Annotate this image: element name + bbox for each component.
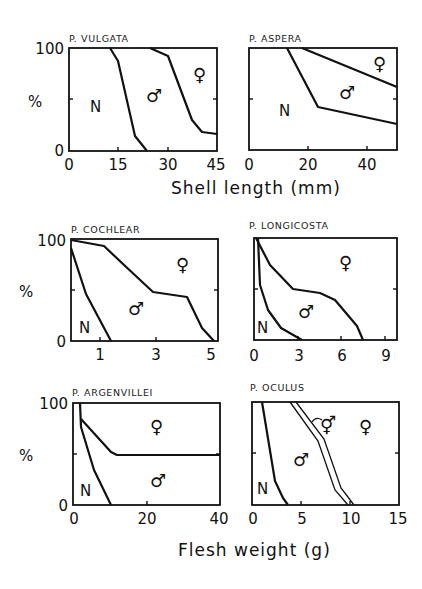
panel-title: P. OCULUS	[250, 382, 305, 393]
region-neuter-label: N	[279, 102, 290, 120]
neuter-boundary-line	[71, 248, 111, 341]
panel-title: P. VULGATA	[69, 33, 129, 44]
y-axis-label: %	[19, 447, 33, 465]
x-tick: 40	[209, 510, 228, 528]
panel-title: P. ASPERA	[249, 33, 302, 44]
x-tick: 0	[248, 510, 258, 528]
x-tick: 5	[297, 510, 307, 528]
female-symbol-icon: ♀	[359, 416, 372, 437]
x-tick: 6	[337, 347, 347, 365]
x-tick: 10	[341, 510, 360, 528]
x-tick: 3	[151, 346, 161, 364]
neuter-boundary-line	[110, 48, 147, 151]
y-tick-100: 100	[35, 40, 64, 58]
hermaphrodite-symbol-icon: ⚥	[320, 415, 336, 436]
male-symbol-icon: ♂	[146, 85, 162, 106]
x-tick: 1	[95, 346, 105, 364]
panel-p-aspera: P. ASPERA 0 20 40 N ♂ ♀	[244, 33, 397, 174]
plot-frame	[71, 239, 218, 341]
x-tick: 0	[244, 156, 254, 174]
x-tick: 5	[206, 346, 216, 364]
y-tick-100: 100	[37, 232, 66, 250]
x-tick: 0	[64, 156, 74, 174]
x-tick: 30	[158, 156, 177, 174]
y-tick-0: 0	[56, 333, 66, 351]
x-axis-title-shell-length: Shell length (mm)	[171, 178, 341, 198]
sex-boundary-line	[71, 240, 214, 341]
region-neuter-label: N	[90, 98, 101, 116]
x-tick: 45	[206, 156, 225, 174]
male-symbol-icon: ♂	[298, 301, 314, 322]
panel-p-cochlear: P. COCHLEAR 100 0 % 1 3 5 N ♂ ♀	[19, 224, 218, 364]
region-neuter-label: N	[257, 319, 268, 337]
x-tick: 0	[69, 510, 79, 528]
male-symbol-icon: ♂	[293, 449, 309, 470]
x-tick: 3	[294, 347, 304, 365]
y-tick-0: 0	[54, 142, 64, 160]
y-tick-0: 0	[58, 497, 68, 515]
female-symbol-icon: ♀	[373, 53, 386, 74]
female-symbol-icon: ♀	[193, 64, 206, 85]
plot-frame	[254, 238, 397, 340]
panel-title: P. LONGICOSTA	[249, 220, 329, 231]
x-tick: 15	[388, 510, 407, 528]
x-tick: 20	[137, 510, 156, 528]
panel-p-vulgata: P. VULGATA 100 0 % 0 15 30 45 N ♂ ♀	[28, 33, 226, 174]
panel-title: P. COCHLEAR	[71, 224, 140, 235]
panel-title: P. ARGENVILLEI	[72, 387, 153, 398]
female-symbol-icon: ♀	[176, 254, 189, 275]
panel-p-argenvillei: P. ARGENVILLEI 100 0 % 0 20 40 N ♂ ♀	[19, 387, 229, 528]
x-tick: 20	[298, 156, 317, 174]
x-axis-title-flesh-weight: Flesh weight (g)	[178, 540, 331, 560]
x-tick: 0	[249, 347, 259, 365]
x-tick: 40	[357, 156, 376, 174]
region-neuter-label: N	[80, 482, 91, 500]
male-symbol-icon: ♂	[128, 298, 144, 319]
figure-canvas: P. VULGATA 100 0 % 0 15 30 45 N ♂ ♀ P. A…	[0, 0, 422, 589]
region-neuter-label: N	[79, 319, 90, 337]
male-symbol-icon: ♂	[339, 82, 355, 103]
female-symbol-icon: ♀	[339, 252, 352, 273]
y-axis-label: %	[19, 283, 33, 301]
x-tick: 15	[108, 156, 127, 174]
y-tick-100: 100	[39, 395, 68, 413]
panel-p-oculus: P. OCULUS 0 5 10 15 N ♂ ⚥ ♀	[248, 382, 407, 528]
male-symbol-icon: ♂	[150, 470, 166, 491]
y-axis-label: %	[28, 93, 42, 111]
region-neuter-label: N	[257, 480, 268, 498]
female-symbol-icon: ♀	[150, 416, 163, 437]
panel-p-longicosta: P. LONGICOSTA 0 3 6 9 N ♂ ♀	[249, 220, 397, 365]
x-tick: 9	[381, 347, 391, 365]
